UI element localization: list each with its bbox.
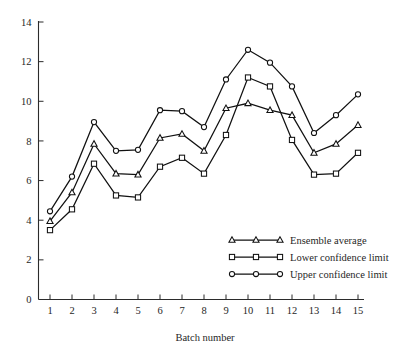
square-marker-icon bbox=[229, 254, 234, 259]
legend-item-triangle[interactable]: Ensemble average bbox=[229, 235, 367, 246]
circle-marker-icon bbox=[267, 60, 272, 65]
square-marker-icon bbox=[179, 155, 184, 160]
square-marker-icon bbox=[289, 137, 294, 142]
x-tick-label: 8 bbox=[201, 305, 206, 316]
legend-label: Upper confidence limit bbox=[290, 269, 387, 280]
square-marker-icon bbox=[253, 254, 258, 259]
series-line bbox=[50, 50, 358, 212]
y-tick-label: 6 bbox=[26, 175, 31, 186]
x-tick-label: 5 bbox=[135, 305, 140, 316]
square-marker-icon bbox=[157, 164, 162, 169]
circle-marker-icon bbox=[289, 84, 294, 89]
x-tick-label: 10 bbox=[243, 305, 254, 316]
circle-marker-icon bbox=[253, 271, 258, 276]
series-circle bbox=[47, 47, 360, 214]
x-tick-label: 6 bbox=[157, 305, 162, 316]
x-tick-label: 1 bbox=[47, 305, 52, 316]
x-tick-label: 13 bbox=[309, 305, 320, 316]
square-marker-icon bbox=[277, 254, 282, 259]
y-tick-label: 4 bbox=[26, 215, 32, 226]
legend-label: Ensemble average bbox=[290, 235, 367, 246]
square-marker-icon bbox=[113, 193, 118, 198]
legend-item-circle[interactable]: Upper confidence limit bbox=[229, 269, 387, 280]
x-axis-title: Batch number bbox=[175, 332, 235, 343]
circle-marker-icon bbox=[355, 92, 360, 97]
y-tick-label: 10 bbox=[21, 96, 32, 107]
circle-marker-icon bbox=[333, 113, 338, 118]
square-marker-icon bbox=[267, 84, 272, 89]
legend-label: Lower confidence limit bbox=[290, 252, 389, 263]
triangle-marker-icon bbox=[91, 141, 97, 147]
circle-marker-icon bbox=[201, 124, 206, 129]
circle-marker-icon bbox=[223, 77, 228, 82]
circle-marker-icon bbox=[179, 109, 184, 114]
x-tick-label: 11 bbox=[265, 305, 275, 316]
y-tick-label: 8 bbox=[26, 136, 31, 147]
legend-item-square[interactable]: Lower confidence limit bbox=[229, 252, 388, 263]
square-marker-icon bbox=[223, 132, 228, 137]
circle-marker-icon bbox=[135, 147, 140, 152]
x-tick-label: 4 bbox=[113, 305, 119, 316]
circle-marker-icon bbox=[47, 209, 52, 214]
circle-marker-icon bbox=[229, 271, 234, 276]
x-tick-label: 2 bbox=[69, 305, 74, 316]
x-tick-label: 7 bbox=[179, 305, 184, 316]
square-marker-icon bbox=[135, 195, 140, 200]
x-tick-label: 15 bbox=[353, 305, 364, 316]
square-marker-icon bbox=[311, 172, 316, 177]
circle-marker-icon bbox=[277, 271, 282, 276]
circle-marker-icon bbox=[91, 119, 96, 124]
square-marker-icon bbox=[69, 207, 74, 212]
y-tick-label: 0 bbox=[26, 294, 31, 305]
y-tick-label: 14 bbox=[21, 17, 32, 28]
circle-marker-icon bbox=[113, 148, 118, 153]
square-marker-icon bbox=[47, 228, 52, 233]
x-tick-label: 12 bbox=[287, 305, 298, 316]
circle-marker-icon bbox=[69, 174, 74, 179]
series-layer bbox=[47, 47, 361, 233]
x-tick-label: 9 bbox=[223, 305, 228, 316]
y-axis: 02468101214 bbox=[21, 17, 44, 306]
square-marker-icon bbox=[355, 150, 360, 155]
circle-marker-icon bbox=[245, 47, 250, 52]
square-marker-icon bbox=[333, 171, 338, 176]
triangle-marker-icon bbox=[179, 131, 185, 137]
square-marker-icon bbox=[201, 171, 206, 176]
chart-container: 02468101214 123456789101112131415 Ensemb… bbox=[0, 0, 411, 349]
x-tick-label: 3 bbox=[91, 305, 96, 316]
triangle-marker-icon bbox=[245, 100, 251, 106]
square-marker-icon bbox=[245, 75, 250, 80]
y-tick-label: 12 bbox=[21, 56, 32, 67]
triangle-marker-icon bbox=[69, 189, 75, 195]
x-axis: 123456789101112131415 bbox=[39, 295, 365, 316]
line-chart: 02468101214 123456789101112131415 Ensemb… bbox=[0, 0, 411, 349]
circle-marker-icon bbox=[311, 130, 316, 135]
x-tick-label: 14 bbox=[331, 305, 342, 316]
y-tick-label: 2 bbox=[26, 254, 31, 265]
square-marker-icon bbox=[91, 161, 96, 166]
circle-marker-icon bbox=[157, 108, 162, 113]
triangle-marker-icon bbox=[355, 122, 361, 128]
chart-legend: Ensemble averageLower confidence limitUp… bbox=[229, 235, 389, 280]
